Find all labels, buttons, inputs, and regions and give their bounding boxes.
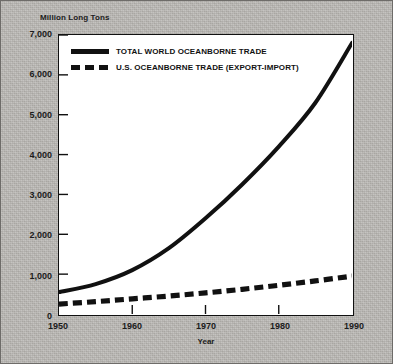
chart-legend: TOTAL WORLD OCEANBORNE TRADE U.S. OCEANB… xyxy=(71,47,299,72)
legend-label-us-trade: U.S. OCEANBORNE TRADE (EXPORT-IMPORT) xyxy=(116,63,299,72)
y-axis-label: 5,000 xyxy=(29,110,52,120)
legend-item-total-world: TOTAL WORLD OCEANBORNE TRADE xyxy=(71,47,299,56)
y-axis-label: 1,000 xyxy=(29,271,52,281)
legend-swatch-dashed-icon xyxy=(71,65,109,70)
y-axis-label: 0 xyxy=(47,311,52,321)
legend-item-us-trade: U.S. OCEANBORNE TRADE (EXPORT-IMPORT) xyxy=(71,63,299,72)
x-axis-label: 1950 xyxy=(48,321,68,331)
y-axis-label: 3,000 xyxy=(29,190,52,200)
chart-figure: Million Long Tons 01,0002,0003,0004,0005… xyxy=(0,0,393,364)
plot-canvas xyxy=(59,35,352,314)
y-axis-label: 4,000 xyxy=(29,150,52,160)
x-axis-tick-labels: 19501960197019801990 xyxy=(58,321,354,335)
plot-area xyxy=(58,34,354,316)
y-axis-label: 7,000 xyxy=(29,29,52,39)
y-axis-title: Million Long Tons xyxy=(40,13,110,22)
y-axis-label: 2,000 xyxy=(29,230,52,240)
x-axis-label: 1970 xyxy=(196,321,216,331)
x-axis-label: 1990 xyxy=(344,321,364,331)
legend-label-total-world: TOTAL WORLD OCEANBORNE TRADE xyxy=(116,47,267,56)
y-axis-tick-labels: 01,0002,0003,0004,0005,0006,0007,000 xyxy=(7,34,52,316)
y-axis-label: 6,000 xyxy=(29,69,52,79)
x-axis-label: 1980 xyxy=(270,321,290,331)
x-axis-title: Year xyxy=(58,337,354,346)
series-line-0 xyxy=(59,43,352,292)
legend-swatch-solid-icon xyxy=(71,49,109,54)
x-axis-label: 1960 xyxy=(122,321,142,331)
